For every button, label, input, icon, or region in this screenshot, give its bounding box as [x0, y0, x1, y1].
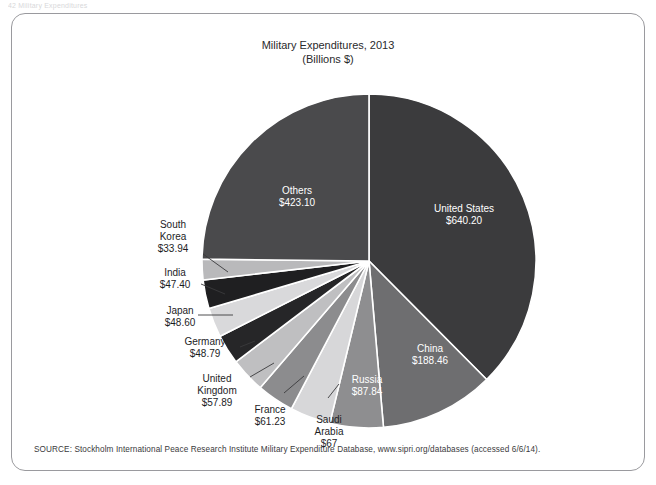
pie-slice-value: $33.94 [158, 243, 189, 254]
pie-slice[interactable] [202, 94, 369, 261]
pie-slice-value: $188.46 [412, 355, 449, 366]
pie-slice-label: Germany$48.79 [184, 336, 225, 359]
pie-slice-label: China$188.46 [412, 343, 449, 366]
pie-slice-value: $48.79 [190, 348, 221, 359]
pie-slice-name: Kingdom [197, 385, 236, 396]
pie-slice-name: Arabia [315, 426, 344, 437]
pie-slice-label: Russia$87.84 [352, 374, 383, 397]
page-header-strip: 42 Military Expenditures [8, 0, 428, 12]
pie-slice-value: $87.84 [352, 386, 383, 397]
pie-slice-value: $640.20 [446, 215, 483, 226]
pie-chart-plot-area: United States$640.20China$188.46Russia$8… [12, 14, 646, 472]
pie-slice-name: Korea [160, 231, 187, 242]
pie-slice-label: Others$423.10 [279, 185, 316, 208]
pie-slice-name: Russia [352, 374, 383, 385]
pie-slice-label: Japan$48.60 [165, 305, 196, 328]
pie-slice-name: South [160, 219, 186, 230]
pie-slice-label: SouthKorea$33.94 [158, 219, 189, 254]
pie-slice-name: France [254, 404, 286, 415]
pie-slice-value: $48.60 [165, 317, 196, 328]
pie-slice-label: India$47.40 [160, 267, 191, 290]
pie-slice-name: Others [282, 185, 312, 196]
pie-slice-label: France$61.23 [254, 404, 286, 427]
pie-chart-svg: United States$640.20China$188.46Russia$8… [12, 14, 646, 472]
figure-frame: Military Expenditures, 2013 (Billions $)… [11, 13, 645, 471]
pie-slice-name: Germany [184, 336, 225, 347]
pie-slice-label: SaudiArabia$67 [315, 414, 344, 449]
pie-slice-name: Japan [166, 305, 193, 316]
pie-slice-name: China [417, 343, 444, 354]
pie-slice-name: United States [434, 203, 494, 214]
pie-slice-name: India [164, 267, 186, 278]
pie-slice-name: United [203, 373, 232, 384]
source-note: SOURCE: Stockholm International Peace Re… [34, 445, 540, 454]
pie-slice-label: UnitedKingdom$57.89 [197, 373, 236, 408]
pie-slice-value: $57.89 [202, 397, 233, 408]
pie-slice-name: Saudi [316, 414, 342, 425]
pie-slice-value: $61.23 [255, 416, 286, 427]
pie-slice-value: $423.10 [279, 197, 316, 208]
pie-slice-value: $47.40 [160, 279, 191, 290]
